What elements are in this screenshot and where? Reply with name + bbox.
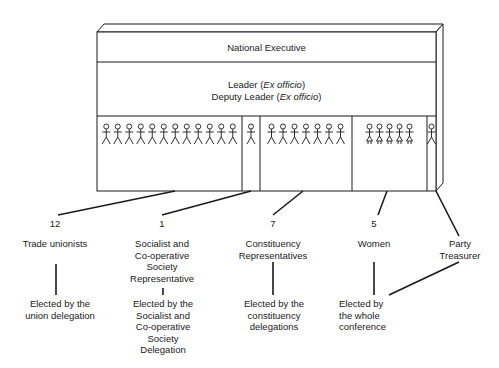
connector-socialist-box (162, 191, 251, 215)
connector-trade-unionists-box (58, 191, 175, 215)
leader-label: Leader (Ex officio) (97, 79, 436, 91)
connector-treasurer-elected (389, 262, 459, 295)
label-women: Women (329, 238, 419, 250)
elected-constituency: Elected by the constituency delegations (224, 298, 324, 333)
box-side-face (436, 24, 443, 191)
elected-women-treasurer: Elected by the whole conference (327, 298, 409, 333)
connector-women-box (378, 191, 387, 215)
count-socialist-cooperative: 1 (147, 218, 177, 230)
count-trade-unionists: 12 (40, 218, 70, 230)
box-title: National Executive (97, 42, 436, 54)
deputy-text: Deputy Leader ( (212, 91, 280, 102)
count-women: 5 (359, 218, 389, 230)
deputy-leader-label: Deputy Leader (Ex officio) (97, 91, 436, 103)
box-front-face (97, 32, 436, 191)
count-constituency: 7 (258, 218, 288, 230)
label-treasurer: Party Treasurer (420, 238, 499, 261)
label-trade-unionists: Trade unionists (10, 238, 100, 250)
elected-socialist-cooperative: Elected by the Socialist and Co-operativ… (113, 298, 213, 356)
connector-treasurer-box (436, 191, 459, 236)
label-socialist-cooperative: Socialist and Co-operative Society Repre… (117, 238, 207, 284)
deputy-close: ) (318, 91, 321, 102)
elected-trade-unionists: Elected by the union delegation (10, 298, 110, 321)
leader-close: ) (302, 79, 305, 90)
connector-constituency-box (273, 191, 303, 215)
box-top-face (97, 24, 443, 32)
leader-text: Leader ( (228, 79, 263, 90)
leader-ex-officio: Ex officio (263, 79, 302, 90)
label-constituency: Constituency Representatives (228, 238, 318, 261)
deputy-ex-officio: Ex officio (280, 91, 319, 102)
